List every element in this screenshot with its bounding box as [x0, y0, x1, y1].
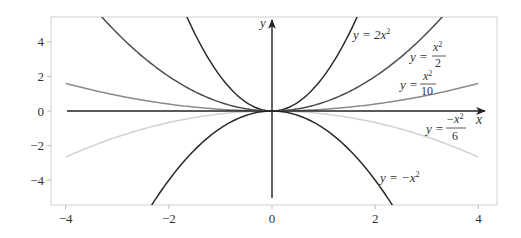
svg-text:x2: x2	[432, 40, 442, 54]
svg-text:10: 10	[421, 84, 433, 98]
svg-text:y =: y =	[424, 121, 444, 136]
svg-text:y = −x2: y = −x2	[378, 170, 420, 185]
x-tick-label: −2	[162, 211, 176, 226]
y-tick-label: 0	[38, 104, 45, 119]
x-tick-label: 0	[269, 211, 276, 226]
svg-text:y =: y =	[398, 77, 418, 92]
y-tick-label: −2	[30, 138, 44, 153]
y-axis-label: y	[258, 15, 266, 30]
y-tick-label: 2	[38, 69, 45, 84]
svg-text:y =: y =	[408, 49, 428, 64]
svg-text:2: 2	[435, 56, 441, 70]
svg-text:x2: x2	[422, 69, 432, 83]
y-tick-label: 4	[38, 34, 45, 49]
x-tick-label: 2	[372, 211, 379, 226]
x-axis-label: x	[475, 112, 483, 127]
parabola-chart: −4−2024−4−2024 x y y = 2x2 y = x2 2 y = …	[0, 0, 521, 238]
label-2x2: y = 2x2	[351, 27, 390, 42]
y-tick-label: −4	[30, 173, 44, 188]
svg-text:−x2: −x2	[446, 112, 463, 126]
label-x2-over-10: y = x2 10	[398, 69, 436, 98]
svg-text:6: 6	[452, 129, 458, 143]
label-x2-over-2: y = x2 2	[408, 40, 446, 70]
x-tick-label: −4	[59, 211, 73, 226]
x-tick-label: 4	[475, 211, 482, 226]
svg-text:y = 2x2: y = 2x2	[351, 27, 390, 42]
label-neg-x2: y = −x2	[378, 170, 420, 185]
